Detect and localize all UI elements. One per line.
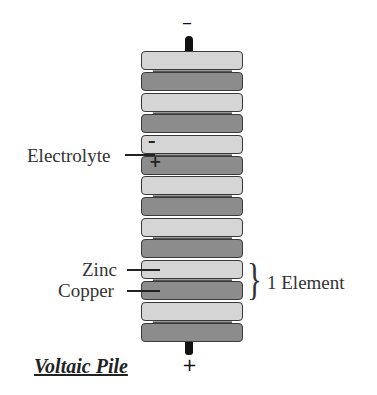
plate-plus-sign: + xyxy=(149,155,162,170)
zinc-plate xyxy=(141,302,243,321)
electrolyte-leader-line xyxy=(125,154,155,156)
copper-label: Copper xyxy=(58,281,114,300)
element-label: 1 Element xyxy=(267,273,345,292)
diagram-title: Voltaic Pile xyxy=(34,355,128,378)
copper-plate xyxy=(141,239,243,258)
zinc-plate xyxy=(141,51,243,70)
electrolyte-label: Electrolyte xyxy=(27,146,110,165)
positive-terminal-sign: + xyxy=(182,356,197,374)
zinc-plate xyxy=(141,176,243,195)
copper-plate xyxy=(141,197,243,216)
zinc-plate xyxy=(141,218,243,237)
zinc-leader-line xyxy=(127,269,160,271)
copper-plate xyxy=(141,72,243,91)
copper-plate xyxy=(141,323,243,342)
copper-plate xyxy=(141,114,243,133)
zinc-label: Zinc xyxy=(82,260,117,279)
negative-terminal xyxy=(185,36,193,51)
zinc-plate xyxy=(141,93,243,112)
copper-leader-line xyxy=(127,290,160,292)
element-brace: } xyxy=(247,258,262,302)
zinc-plate xyxy=(141,135,243,154)
plate-minus-sign: – xyxy=(148,134,156,149)
negative-terminal-sign: – xyxy=(182,12,192,32)
